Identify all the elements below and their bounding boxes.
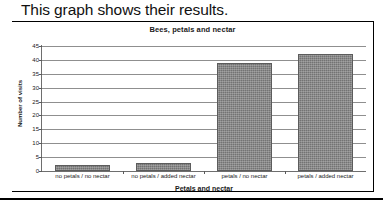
y-tick-label: 5	[36, 154, 39, 160]
x-tick-mark	[204, 171, 205, 174]
y-tick-label: 45	[32, 43, 39, 49]
x-axis-category-labels: no petals / no nectarno petals / added n…	[42, 173, 366, 185]
bar	[55, 165, 110, 171]
x-axis-category-label: petals / no nectar	[204, 173, 285, 179]
y-tick-label: 15	[32, 126, 39, 132]
x-axis-category-label: no petals / added nectar	[123, 173, 204, 179]
bar-series	[42, 46, 366, 171]
y-tick-label: 0	[36, 168, 39, 174]
x-tick-mark	[285, 171, 286, 174]
y-tick-label: 10	[32, 140, 39, 146]
y-tick-label: 35	[32, 71, 39, 77]
bar	[136, 163, 191, 171]
x-axis-title: Petals and nectar	[42, 185, 366, 192]
y-axis-title: Number of visits	[17, 80, 23, 127]
chart-title: Bees, petals and nectar	[12, 25, 373, 34]
bar	[217, 63, 272, 171]
bottom-divider	[0, 198, 383, 200]
y-tick-label: 25	[32, 99, 39, 105]
page-heading: This graph shows their results.	[21, 1, 228, 19]
x-axis-category-label: petals / added nectar	[285, 173, 366, 179]
bar-slot	[285, 46, 366, 171]
bar	[298, 54, 353, 171]
x-tick-mark	[123, 171, 124, 174]
y-tick-label: 40	[32, 57, 39, 63]
y-tick-label: 30	[32, 85, 39, 91]
bar-slot	[204, 46, 285, 171]
y-tick-mark	[39, 171, 42, 172]
plot-area: 051015202530354045	[42, 46, 366, 171]
chart-frame: Bees, petals and nectar Number of visits…	[12, 21, 374, 192]
bar-slot	[123, 46, 204, 171]
y-tick-label: 20	[32, 112, 39, 118]
x-axis-category-label: no petals / no nectar	[42, 173, 123, 179]
bar-slot	[42, 46, 123, 171]
